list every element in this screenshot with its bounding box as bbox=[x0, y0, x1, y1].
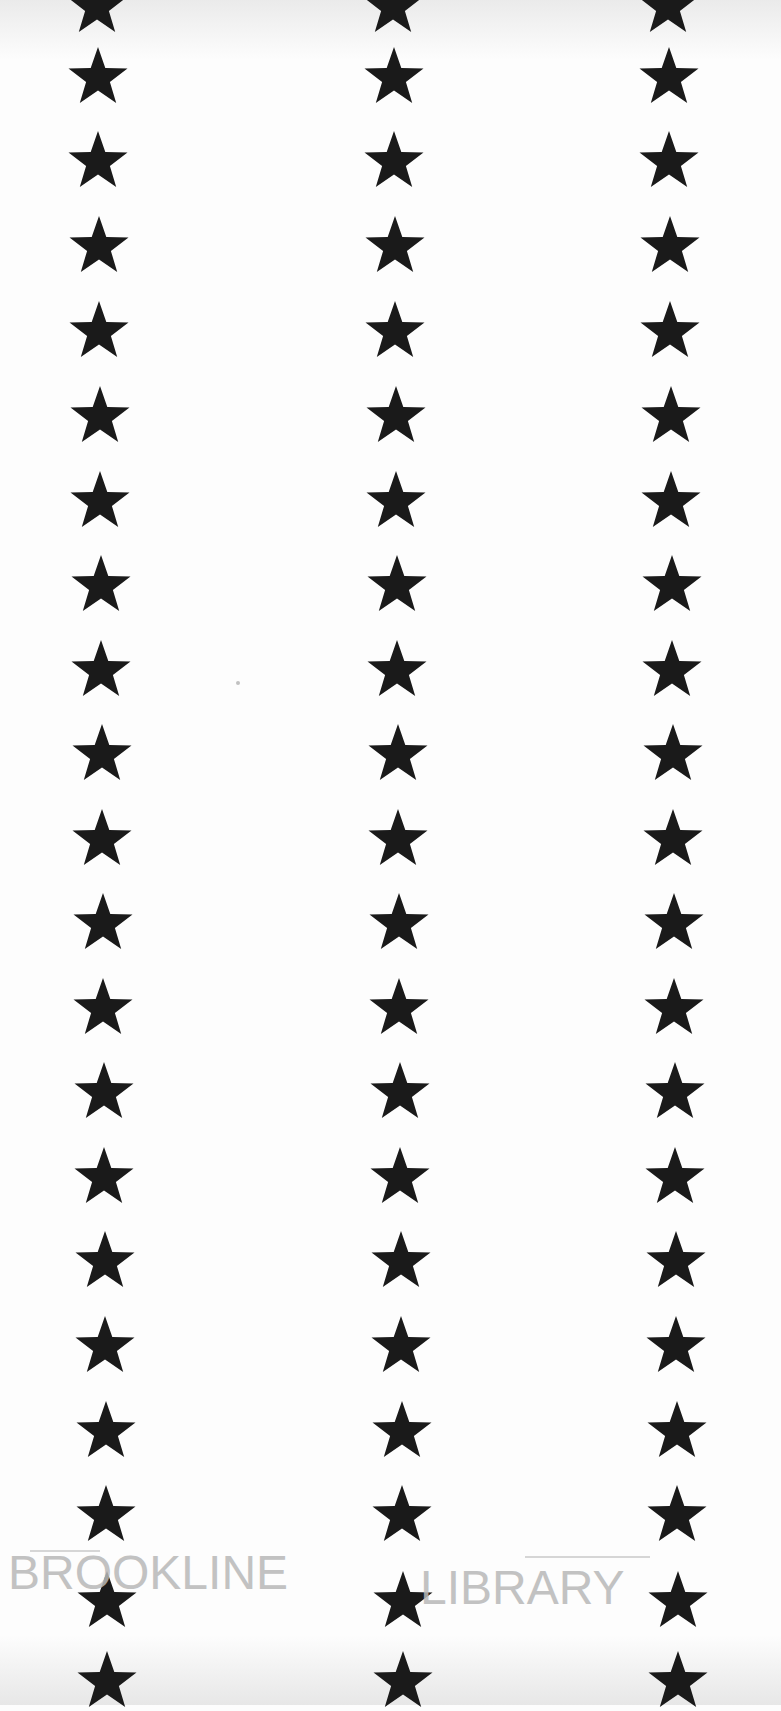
star-icon bbox=[637, 129, 701, 191]
star-icon bbox=[366, 807, 430, 869]
star-icon bbox=[369, 1229, 433, 1291]
star-icon bbox=[66, 45, 130, 107]
star-icon bbox=[365, 553, 429, 615]
star-icon bbox=[638, 299, 702, 361]
star-icon bbox=[636, 0, 700, 36]
star-icon bbox=[72, 1145, 136, 1207]
star-icon bbox=[645, 1483, 709, 1545]
star-icon bbox=[365, 638, 429, 700]
star-icon bbox=[71, 976, 135, 1038]
star-icon bbox=[370, 1483, 434, 1545]
star-icon bbox=[74, 1399, 138, 1461]
star-icon bbox=[68, 469, 132, 531]
star-icon bbox=[363, 299, 427, 361]
star-icon bbox=[69, 638, 133, 700]
star-icon bbox=[364, 469, 428, 531]
star-icon bbox=[362, 129, 426, 191]
star-icon bbox=[369, 1314, 433, 1376]
star-icon bbox=[641, 722, 705, 784]
star-icon bbox=[72, 1060, 136, 1122]
star-icon bbox=[643, 1145, 707, 1207]
star-icon bbox=[363, 214, 427, 276]
star-icon bbox=[70, 807, 134, 869]
star-icon bbox=[370, 1399, 434, 1461]
star-icon bbox=[74, 1483, 138, 1545]
star-icon bbox=[68, 384, 132, 446]
star-icon bbox=[65, 0, 129, 36]
star-icon bbox=[71, 891, 135, 953]
scan-speck bbox=[236, 681, 240, 685]
star-icon bbox=[73, 1229, 137, 1291]
star-icon bbox=[644, 1314, 708, 1376]
star-icon bbox=[361, 0, 425, 36]
star-icon bbox=[67, 214, 131, 276]
star-icon bbox=[645, 1399, 709, 1461]
star-icon bbox=[640, 638, 704, 700]
star-icon bbox=[642, 891, 706, 953]
star-icon bbox=[364, 384, 428, 446]
star-icon bbox=[639, 469, 703, 531]
star-icon bbox=[70, 722, 134, 784]
star-icon bbox=[362, 45, 426, 107]
star-icon bbox=[367, 976, 431, 1038]
star-icon bbox=[646, 1649, 710, 1711]
star-icon bbox=[646, 1569, 710, 1631]
star-icon bbox=[69, 553, 133, 615]
star-icon bbox=[643, 1060, 707, 1122]
star-icon bbox=[66, 129, 130, 191]
library-stamp-right: LIBRARY bbox=[420, 1560, 625, 1615]
star-icon bbox=[639, 384, 703, 446]
star-icon bbox=[366, 722, 430, 784]
star-icon bbox=[642, 976, 706, 1038]
star-icon bbox=[371, 1649, 435, 1711]
star-icon bbox=[638, 214, 702, 276]
star-icon bbox=[367, 891, 431, 953]
star-icon bbox=[644, 1229, 708, 1291]
library-stamp-left: BROOKLINE bbox=[8, 1545, 288, 1600]
star-icon bbox=[73, 1314, 137, 1376]
star-icon bbox=[368, 1060, 432, 1122]
star-icon bbox=[640, 553, 704, 615]
star-icon bbox=[67, 299, 131, 361]
star-icon bbox=[641, 807, 705, 869]
stamp-border-right bbox=[525, 1556, 650, 1558]
star-icon bbox=[368, 1145, 432, 1207]
star-icon bbox=[75, 1649, 139, 1711]
star-icon bbox=[637, 45, 701, 107]
